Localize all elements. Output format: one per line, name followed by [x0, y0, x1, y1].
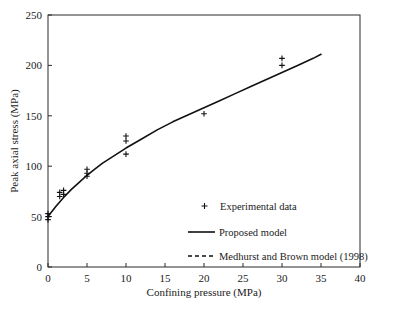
x-axis-tick-labels: 0510152025303540 [45, 272, 366, 284]
x-tick-label: 10 [121, 272, 133, 284]
data-point-marker [279, 56, 285, 62]
y-tick-label: 250 [26, 9, 43, 21]
data-point-marker [201, 111, 207, 117]
y-tick-label: 50 [31, 211, 43, 223]
legend-label-medhurst-brown-model: Medhurst and Brown model (1998) [219, 251, 368, 263]
model-curves [48, 54, 321, 216]
x-tick-label: 35 [316, 272, 328, 284]
x-tick-label: 40 [355, 272, 367, 284]
chart-figure: 0510152025303540 050100150200250 Confini… [0, 0, 396, 316]
x-tick-label: 0 [45, 272, 51, 284]
y-tick-label: 100 [26, 160, 43, 172]
y-axis-ticks [48, 15, 52, 267]
legend-entry-experimental-data: Experimental data [202, 201, 298, 212]
x-axis-title: Confining pressure (MPa) [147, 286, 262, 299]
data-point-marker [84, 166, 90, 172]
x-tick-label: 20 [199, 272, 211, 284]
y-axis-tick-labels: 050100150200250 [26, 9, 43, 273]
data-point-marker [279, 63, 285, 69]
y-tick-label: 150 [26, 110, 43, 122]
data-point-marker [123, 133, 129, 139]
model-curve-proposed-model [48, 54, 321, 216]
chart-svg: 0510152025303540 050100150200250 Confini… [0, 0, 396, 316]
x-axis-ticks [48, 263, 360, 267]
legend-label-experimental-data: Experimental data [220, 201, 297, 212]
legend-entry-medhurst-brown-model: Medhurst and Brown model (1998) [188, 251, 368, 263]
data-point-marker [45, 211, 51, 217]
x-tick-label: 25 [238, 272, 250, 284]
data-point-marker [123, 151, 129, 157]
x-tick-label: 30 [277, 272, 289, 284]
plot-frame [48, 15, 360, 267]
data-point-marker [123, 138, 129, 144]
y-tick-label: 0 [37, 261, 43, 273]
chart-legend: Experimental data Proposed model Medhurs… [188, 201, 368, 263]
x-tick-label: 15 [160, 272, 172, 284]
y-tick-label: 200 [26, 59, 43, 71]
plus-marker-icon [202, 203, 208, 209]
legend-entry-proposed-model: Proposed model [188, 227, 287, 238]
y-axis-title: Peak axial stress (MPa) [8, 89, 21, 193]
experimental-data-markers [45, 56, 285, 223]
legend-label-proposed-model: Proposed model [219, 227, 287, 238]
x-tick-label: 5 [84, 272, 90, 284]
